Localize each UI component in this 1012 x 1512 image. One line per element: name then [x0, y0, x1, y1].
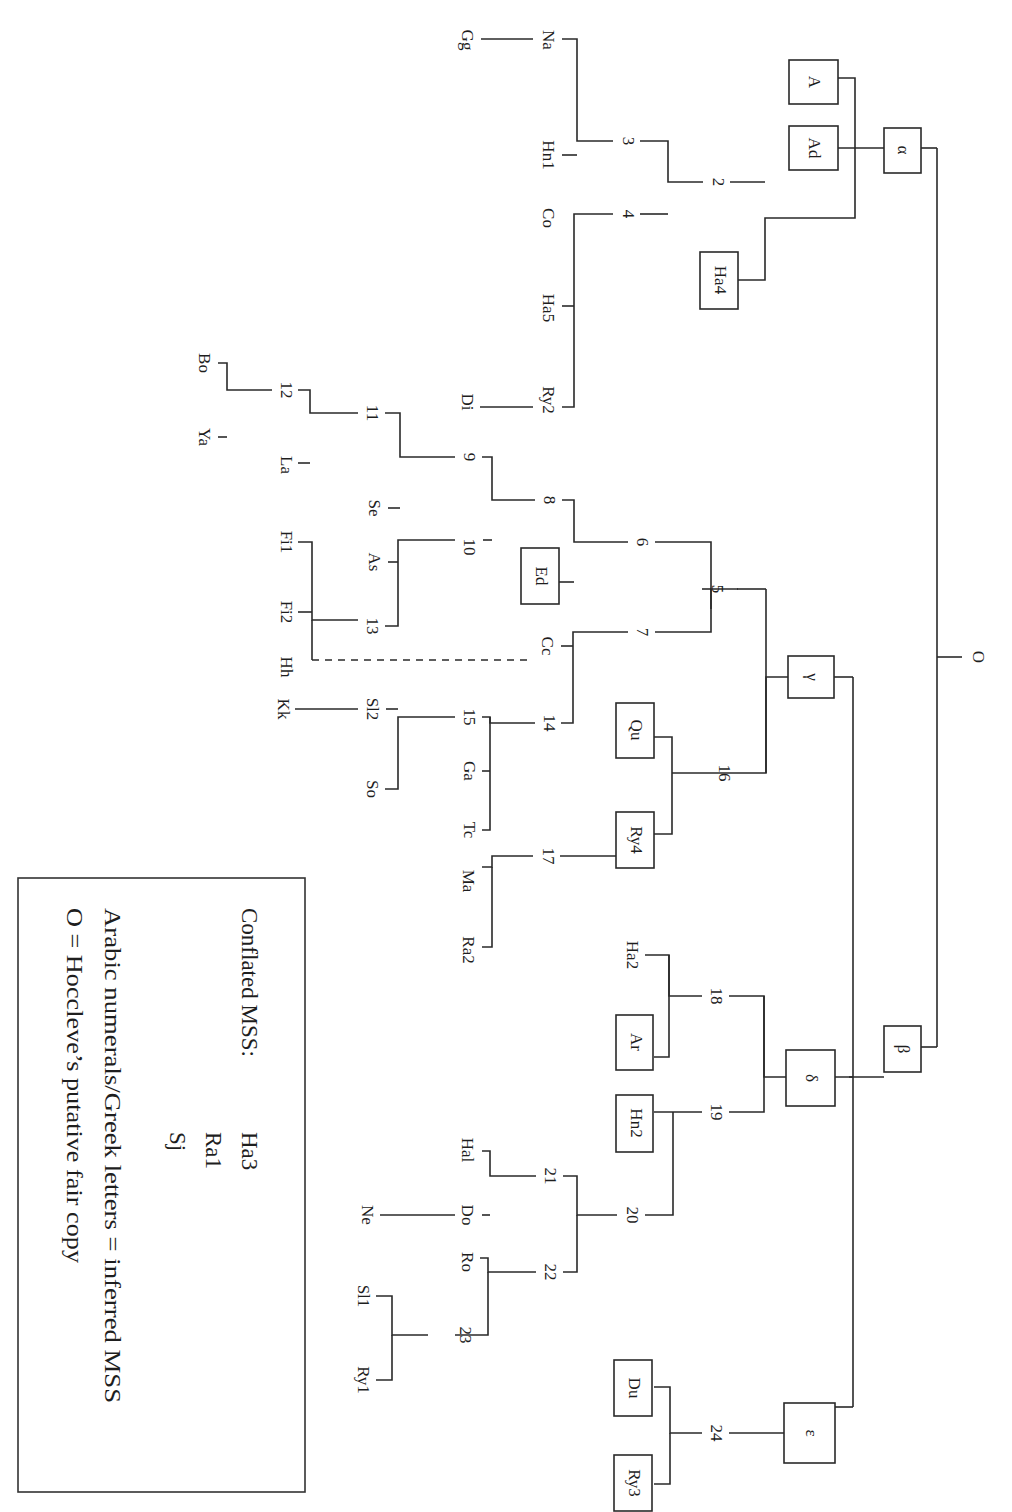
label-Hn2: Hn2: [627, 1108, 646, 1137]
label-O: O: [969, 651, 988, 663]
label-alpha: α: [894, 146, 913, 155]
label-n8: 8: [540, 496, 559, 505]
label-Hal: Hal: [458, 1138, 477, 1163]
label-n12: 12: [277, 382, 296, 399]
label-Ra2: Ra2: [459, 936, 478, 963]
label-Fi2: Fi2: [277, 601, 296, 624]
label-Ad: Ad: [805, 138, 824, 159]
label-delta: δ: [802, 1074, 821, 1082]
label-n19: 19: [707, 1104, 726, 1121]
label-n16: 16: [715, 765, 734, 782]
label-Se: Se: [365, 500, 384, 517]
legend-conflated-ms-3: Sj: [165, 1132, 190, 1151]
label-n20: 20: [623, 1207, 642, 1224]
label-Ma: Ma: [459, 870, 478, 893]
label-Kk: Kk: [274, 699, 293, 720]
label-n11: 11: [363, 405, 382, 421]
label-Ry1: Ry1: [354, 1366, 373, 1394]
label-Ar: Ar: [627, 1033, 646, 1051]
label-Ry3: Ry3: [625, 1469, 644, 1497]
node-labels: O A Ad α Ha4 2 3 4 Na Gg Hn1 Co Ha5 Ry2 …: [195, 30, 988, 1497]
label-Ga: Ga: [460, 761, 479, 781]
label-Co: Co: [539, 208, 558, 228]
label-n2: 2: [709, 178, 728, 187]
label-Sl1: Sl1: [354, 1285, 373, 1308]
label-n21: 21: [541, 1168, 560, 1185]
label-n10: 10: [460, 539, 479, 556]
label-A: A: [805, 76, 824, 89]
legend-conflated-ms-2: Ra1: [201, 1132, 226, 1169]
label-beta: β: [894, 1045, 913, 1054]
label-Ha2: Ha2: [623, 941, 642, 969]
label-n14: 14: [540, 715, 559, 733]
label-n24: 24: [707, 1425, 726, 1443]
label-Cc: Cc: [538, 637, 557, 656]
label-Na: Na: [539, 30, 558, 50]
legend-O-note: O = Hoccleve’s putative fair copy: [62, 908, 87, 1264]
label-Ha4: Ha4: [711, 266, 730, 295]
label-As: As: [365, 553, 384, 572]
label-Ry2: Ry2: [539, 386, 558, 414]
label-n15: 15: [460, 709, 479, 726]
label-Ne: Ne: [358, 1205, 377, 1225]
legend: Conflated MSS: Ha3 Ra1 Sj Arabic numeral…: [18, 878, 305, 1492]
label-n13: 13: [363, 618, 382, 635]
label-Hn1: Hn1: [539, 140, 558, 169]
label-n22: 22: [541, 1264, 560, 1281]
label-Di: Di: [458, 394, 477, 411]
label-n7: 7: [633, 628, 652, 637]
label-n17: 17: [539, 848, 558, 866]
label-Gg: Gg: [458, 30, 477, 51]
label-Fi1: Fi1: [277, 531, 296, 554]
label-Ya: Ya: [195, 428, 214, 447]
label-Ed: Ed: [532, 567, 551, 586]
label-n4: 4: [619, 210, 638, 219]
label-gamma: γ: [803, 672, 822, 681]
label-Ro: Ro: [458, 1252, 477, 1272]
label-Sl2: Sl2: [363, 698, 382, 721]
legend-inferred-note: Arabic numerals/Greek letters = inferred…: [100, 908, 125, 1403]
stemma-diagram: O A Ad α Ha4 2 3 4 Na Gg Hn1 Co Ha5 Ry2 …: [0, 0, 1012, 1512]
label-n18: 18: [707, 988, 726, 1005]
label-Du: Du: [625, 1378, 644, 1399]
label-n9: 9: [460, 453, 479, 462]
label-epsilon: ε: [802, 1429, 821, 1436]
label-Ry4: Ry4: [627, 826, 646, 854]
label-Bo: Bo: [195, 353, 214, 373]
label-Hh: Hh: [277, 657, 296, 678]
legend-conflated-label: Conflated MSS:: [237, 908, 262, 1057]
label-Do: Do: [458, 1205, 477, 1226]
label-Tc: Tc: [460, 822, 479, 839]
label-Qu: Qu: [627, 720, 646, 741]
label-n3: 3: [619, 137, 638, 146]
label-La: La: [277, 456, 296, 474]
tree-edges: [218, 39, 962, 1484]
legend-conflated-ms-1: Ha3: [237, 1132, 262, 1170]
label-n5: 5: [708, 585, 727, 594]
label-So: So: [363, 780, 382, 798]
label-n23: 23: [456, 1327, 475, 1344]
label-Ha5: Ha5: [539, 294, 558, 322]
label-n6: 6: [633, 538, 652, 547]
